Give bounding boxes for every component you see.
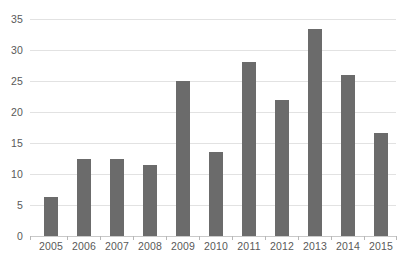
- y-tick-label: 30: [0, 44, 23, 56]
- bar-2009: [176, 81, 190, 236]
- plot-area: [30, 10, 396, 236]
- bar-2015: [374, 133, 388, 236]
- bar-2011: [242, 62, 256, 236]
- x-axis-labels: 2005 2006 2007 2008 2009 2010 2011 2012 …: [30, 240, 396, 260]
- bar-2006: [77, 159, 91, 236]
- y-tick-label: 5: [0, 199, 23, 211]
- bar-2010: [209, 152, 223, 236]
- bar-2012: [275, 100, 289, 236]
- y-tick-label: 15: [0, 137, 23, 149]
- y-tick-label: 10: [0, 168, 23, 180]
- axis-baseline: [30, 236, 396, 237]
- bars-layer: [30, 10, 396, 236]
- bar-2014: [341, 75, 355, 236]
- bar-2007: [110, 159, 124, 236]
- bar-2013: [308, 29, 322, 236]
- y-tick-label: 25: [0, 75, 23, 87]
- bar-2008: [143, 165, 157, 236]
- bar-chart: 35 30 25 20 15 10 5 0: [0, 0, 407, 264]
- x-tick-label-2015: 2015: [361, 240, 401, 252]
- y-tick-label: 0: [0, 230, 23, 242]
- bar-2005: [44, 197, 58, 236]
- y-tick-label: 20: [0, 106, 23, 118]
- y-tick-label: 35: [0, 13, 23, 25]
